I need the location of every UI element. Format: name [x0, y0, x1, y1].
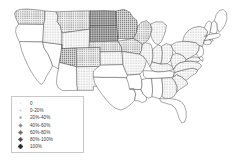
- state-ND[interactable]: [90, 11, 117, 26]
- state-MI[interactable]: [150, 22, 166, 45]
- legend-item-6[interactable]: 100%: [12, 143, 83, 150]
- map-figure-root: 0 0-20% 20%-40%: [0, 0, 236, 162]
- legend-swatch-density-6: [16, 143, 25, 150]
- legend-item-5[interactable]: 80%-100%: [12, 136, 83, 143]
- legend-item-1[interactable]: 0-20%: [12, 107, 83, 114]
- legend-label-5: 80%-100%: [30, 136, 53, 143]
- state-FL[interactable]: [159, 99, 186, 123]
- legend-label-0: 0: [30, 100, 33, 107]
- state-OR[interactable]: [16, 24, 44, 42]
- legend-item-0[interactable]: 0: [12, 100, 83, 107]
- state-AZ[interactable]: [56, 62, 77, 90]
- state-CO[interactable]: [76, 47, 100, 66]
- state-SD[interactable]: [89, 25, 118, 41]
- state-AL[interactable]: [152, 78, 163, 98]
- state-TN[interactable]: [143, 71, 174, 79]
- legend-label-6: 100%: [30, 143, 42, 150]
- state-IN[interactable]: [152, 45, 162, 64]
- legend-label-1: 0-20%: [30, 107, 44, 114]
- state-KS[interactable]: [100, 51, 123, 65]
- legend-item-3[interactable]: 40%-60%: [12, 122, 83, 129]
- legend-swatch-density-2: [16, 114, 25, 121]
- map-legend: 0 0-20% 20%-40%: [11, 96, 84, 153]
- legend-item-4[interactable]: 60%-80%: [12, 129, 83, 136]
- legend-label-3: 40%-60%: [30, 122, 50, 129]
- state-WA[interactable]: [15, 9, 45, 24]
- legend-swatch-density-1: [16, 107, 25, 114]
- legend-swatch-density-3: [16, 122, 25, 129]
- legend-swatch-density-5: [16, 136, 25, 143]
- legend-swatch-density-0: [16, 100, 25, 107]
- state-OK[interactable]: [93, 65, 127, 78]
- legend-swatch-density-4: [16, 129, 25, 136]
- legend-label-4: 60%-80%: [30, 129, 50, 136]
- state-MN[interactable]: [116, 9, 138, 38]
- legend-item-2[interactable]: 20%-40%: [12, 114, 83, 121]
- legend-label-2: 20%-40%: [30, 114, 50, 121]
